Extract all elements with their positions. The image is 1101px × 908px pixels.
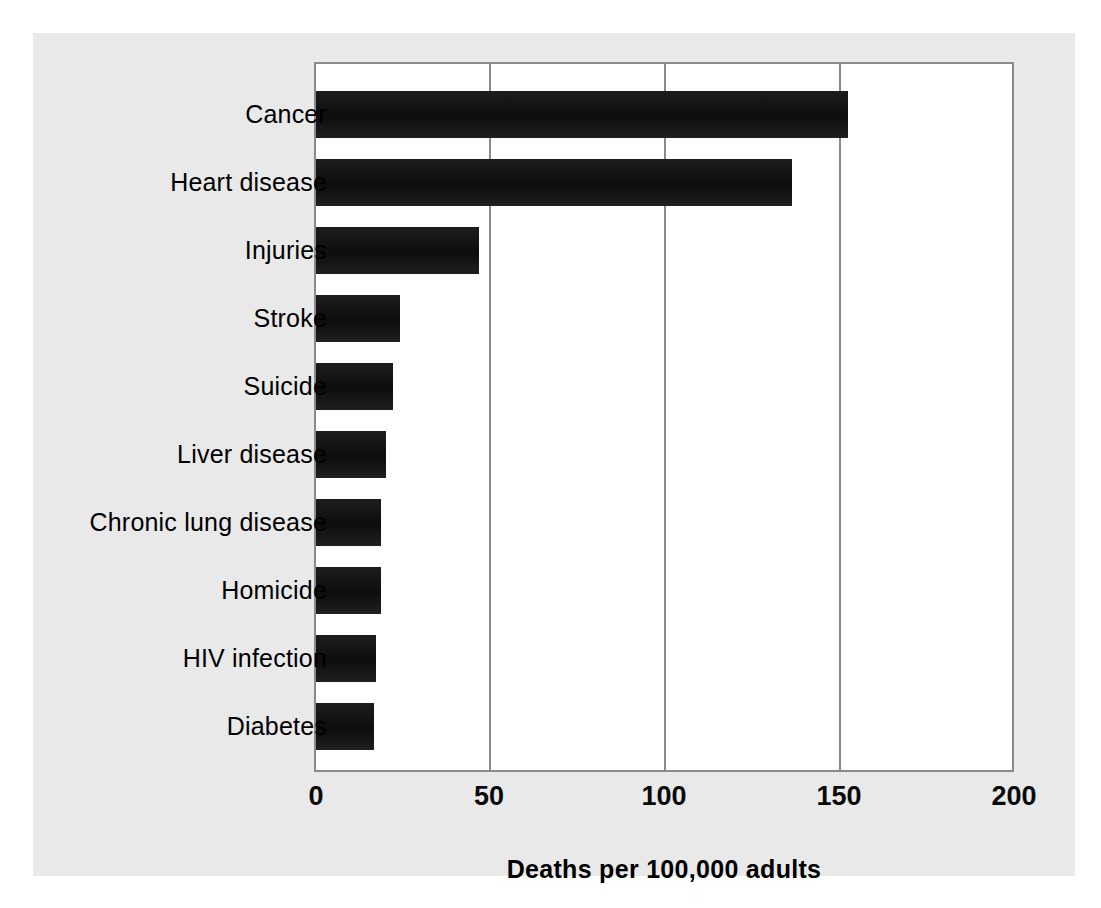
bar-heart-disease: [316, 159, 792, 206]
xtick-label-150: 150: [816, 781, 861, 812]
bar-chart: Cancer Heart disease Injuries Stroke Sui…: [33, 33, 1075, 876]
bar-cancer: [316, 91, 848, 138]
category-label-chronic-lung-disease: Chronic lung disease: [37, 510, 327, 535]
figure-panel: Cancer Heart disease Injuries Stroke Sui…: [33, 33, 1075, 876]
category-label-suicide: Suicide: [37, 374, 327, 399]
bar-injuries: [316, 227, 479, 274]
xtick-label-100: 100: [641, 781, 686, 812]
category-label-injuries: Injuries: [37, 238, 327, 263]
bar-suicide: [316, 363, 393, 410]
xtick-label-50: 50: [474, 781, 504, 812]
category-label-stroke: Stroke: [37, 306, 327, 331]
x-axis-title: Deaths per 100,000 adults: [314, 855, 1014, 884]
xtick-label-200: 200: [991, 781, 1036, 812]
category-label-heart-disease: Heart disease: [37, 170, 327, 195]
category-label-cancer: Cancer: [37, 102, 327, 127]
xtick-label-0: 0: [308, 781, 323, 812]
category-label-liver-disease: Liver disease: [37, 442, 327, 467]
bar-stroke: [316, 295, 400, 342]
category-label-homicide: Homicide: [37, 578, 327, 603]
gridline-150: [839, 64, 841, 770]
category-label-hiv-infection: HIV infection: [37, 646, 327, 671]
plot-area: [314, 62, 1014, 772]
category-label-diabetes: Diabetes: [37, 714, 327, 739]
